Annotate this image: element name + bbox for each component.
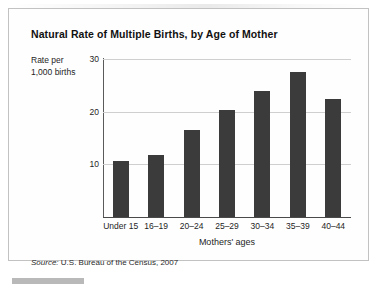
bar[interactable] (148, 155, 164, 217)
plot-inner: 102030 Under 1516–1920–2425–2930–3435–39… (103, 59, 351, 217)
bar-slot (138, 59, 173, 217)
y-axis-caption-line-1: Rate per (31, 55, 75, 67)
bar-slot (280, 59, 315, 217)
bar-slot (103, 59, 138, 217)
bars-group (103, 59, 351, 217)
x-tick-label: 40–44 (321, 221, 345, 231)
x-axis-line (103, 217, 351, 218)
bar-slot (209, 59, 244, 217)
bar[interactable] (184, 130, 200, 217)
y-tick-label-30: 30 (90, 54, 99, 64)
bar-slot (316, 59, 351, 217)
bar-slot (245, 59, 280, 217)
y-tick-label-20: 20 (90, 107, 99, 117)
source-label: Source: (31, 258, 59, 267)
page-title: Natural Rate of Multiple Births, by Age … (31, 28, 278, 40)
source-text: U.S. Bureau of the Census, 2007 (59, 258, 179, 267)
x-axis-title: Mothers' ages (103, 237, 351, 247)
figure-page-frame: Natural Rate of Multiple Births, by Age … (8, 8, 369, 261)
bar[interactable] (290, 72, 306, 217)
chart-plot-area: 102030 Under 1516–1920–2425–2930–3435–39… (103, 59, 351, 217)
x-tick-label: 16–19 (144, 221, 168, 231)
x-tick-label: 20–24 (180, 221, 204, 231)
x-tick-label: Under 15 (103, 221, 138, 231)
page-edge-artifact (12, 278, 84, 284)
x-tick-label: 35–39 (286, 221, 310, 231)
bar[interactable] (113, 161, 129, 217)
x-tick-label: 25–29 (215, 221, 239, 231)
y-axis-caption: Rate per 1,000 births (31, 55, 75, 78)
bar[interactable] (254, 91, 270, 217)
x-tick-label: 30–34 (251, 221, 275, 231)
bar[interactable] (325, 99, 341, 217)
bar[interactable] (219, 110, 235, 217)
source-note: Source: U.S. Bureau of the Census, 2007 (31, 258, 178, 267)
y-axis-caption-line-2: 1,000 births (31, 67, 75, 79)
y-tick-label-10: 10 (90, 159, 99, 169)
bar-slot (174, 59, 209, 217)
